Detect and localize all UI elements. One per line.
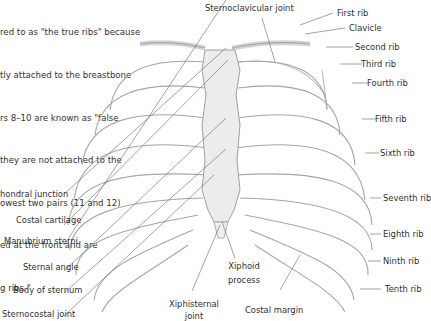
label-third-rib: Third rib: [361, 59, 396, 69]
label-sternal-angle: Sternal angle: [23, 262, 79, 272]
label-body-of-sternum: Body of sternum: [13, 285, 82, 295]
label-xiphisternal-line-1: Xiphisternal: [166, 299, 222, 309]
sternum-shape: [202, 50, 240, 222]
label-fourth-rib: Fourth rib: [367, 78, 408, 88]
label-second-rib: Second rib: [355, 42, 400, 52]
xiphoid-shape: [214, 222, 228, 238]
label-tenth-rib: Tenth rib: [385, 284, 422, 294]
label-first-rib: First rib: [337, 8, 368, 18]
label-xiphoid-line-2: process: [226, 275, 262, 285]
label-xiphoid-process: Xiphoid process: [226, 261, 262, 285]
label-eighth-rib: Eighth rib: [383, 229, 424, 239]
label-xiphoid-line-1: Xiphoid: [226, 261, 262, 271]
label-fifth-rib: Fifth rib: [375, 114, 407, 124]
label-ninth-rib: Ninth rib: [383, 256, 419, 266]
label-sixth-rib: Sixth rib: [380, 148, 415, 158]
label-costal-cartilage: Costal cartilage: [16, 215, 81, 225]
label-seventh-rib: Seventh rib: [383, 193, 431, 203]
label-xiphisternal-line-2: joint: [166, 311, 222, 321]
label-xiphisternal-joint: Xiphisternal joint: [166, 299, 222, 321]
label-costal-margin: Costal margin: [245, 305, 303, 315]
label-sternoclavicular-joint: Sternoclavicular joint: [205, 3, 294, 13]
label-clavicle: Clavicle: [349, 23, 382, 33]
label-sternocostal-joint: Sternocostal joint: [2, 309, 75, 319]
label-costochondral-junction: hondral junction: [0, 189, 68, 199]
label-manubrium-sterni: Manubrium sterni: [4, 236, 78, 246]
